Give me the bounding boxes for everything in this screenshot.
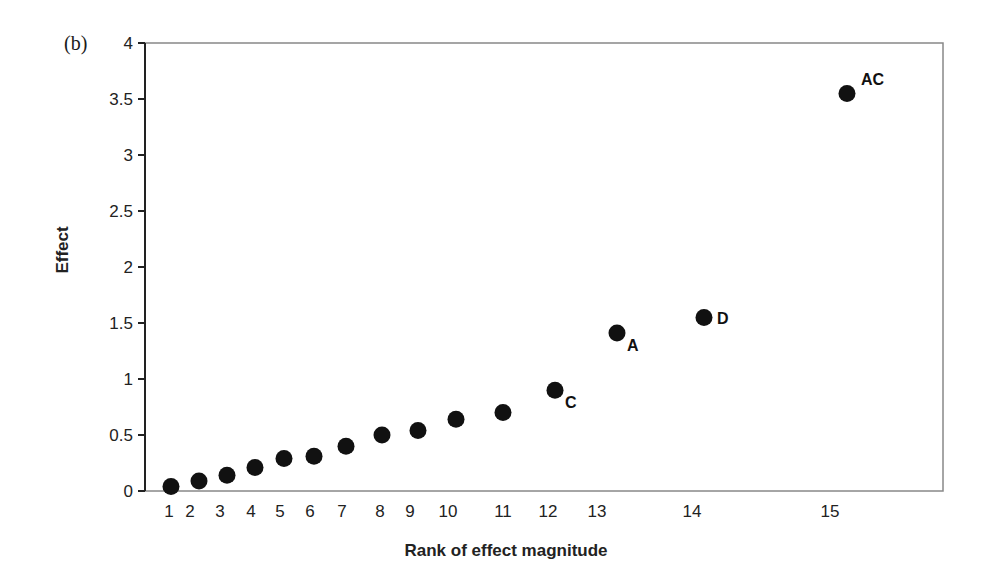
y-tick-label: 1.5 (109, 314, 133, 333)
point-label: D (717, 310, 729, 327)
data-point (276, 450, 293, 467)
x-tick-label: 15 (821, 502, 840, 521)
data-point (219, 467, 236, 484)
x-axis-title: Rank of effect magnitude (404, 541, 607, 560)
y-tick-label: 3.5 (109, 90, 133, 109)
data-point (410, 422, 427, 439)
data-point (163, 478, 180, 495)
x-tick-label: 9 (405, 502, 414, 521)
data-points: CADAC (163, 71, 885, 495)
data-point (495, 404, 512, 421)
x-tick-label: 10 (439, 502, 458, 521)
y-tick-label: 4 (124, 34, 133, 53)
data-point (839, 85, 856, 102)
x-tick-label: 7 (337, 502, 346, 521)
x-tick-label: 4 (246, 502, 255, 521)
plot-frame (145, 43, 943, 491)
y-tick-label: 1 (124, 370, 133, 389)
data-point (609, 325, 626, 342)
y-tick-label: 2.5 (109, 202, 133, 221)
x-tick-label: 3 (215, 502, 224, 521)
panel-label: (b) (64, 32, 87, 55)
x-tick-label: 13 (588, 502, 607, 521)
x-tick-label: 2 (185, 502, 194, 521)
x-tick-label: 8 (375, 502, 384, 521)
data-point (247, 459, 264, 476)
x-tick-label: 11 (494, 502, 512, 521)
data-point (547, 382, 564, 399)
data-point (696, 309, 713, 326)
x-tick-label: 12 (539, 502, 558, 521)
point-label: A (627, 337, 639, 354)
x-tick-label: 5 (275, 502, 284, 521)
y-tick-label: 0.5 (109, 426, 133, 445)
y-axis-ticks: 00.511.522.533.54 (109, 34, 145, 501)
x-tick-label: 14 (683, 502, 702, 521)
x-axis-ticks: 123456789101112131415 (164, 502, 839, 521)
point-label: C (565, 394, 577, 411)
data-point (448, 411, 465, 428)
y-tick-label: 2 (124, 258, 133, 277)
data-point (338, 438, 355, 455)
data-point (191, 472, 208, 489)
y-tick-label: 3 (124, 146, 133, 165)
y-tick-label: 0 (124, 482, 133, 501)
y-axis-title: Effect (53, 226, 72, 274)
data-point (306, 448, 323, 465)
scatter-chart: (b) 00.511.522.533.54 123456789101112131… (0, 0, 995, 581)
x-tick-label: 1 (164, 502, 173, 521)
x-tick-label: 6 (305, 502, 314, 521)
point-label: AC (861, 71, 885, 88)
data-point (374, 427, 391, 444)
